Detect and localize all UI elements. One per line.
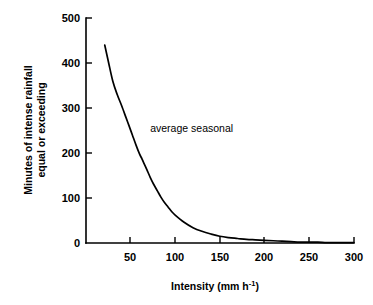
y-tick-label-100: 100 <box>62 192 80 204</box>
svg-text:Intensity (mm h-1): Intensity (mm h-1) <box>171 279 259 292</box>
x-axis-title-main: Intensity (mm h <box>171 280 249 292</box>
y-axis-title-line2: equal or exceeding <box>35 82 47 177</box>
x-axis-title-tail: ) <box>255 280 259 292</box>
y-tick-label-500: 500 <box>62 12 80 24</box>
x-tick-label-300: 300 <box>345 251 363 263</box>
x-tick-label-100: 100 <box>166 251 184 263</box>
x-axis-title-superscript: -1 <box>249 279 256 288</box>
y-axis-tick-labels: 500 400 300 200 100 0 <box>62 12 80 249</box>
x-tick-label-50: 50 <box>124 251 136 263</box>
y-tick-label-0: 0 <box>74 237 80 249</box>
y-axis-title: Minutes of intense rainfall equal or exc… <box>22 65 47 195</box>
x-tick-label-200: 200 <box>255 251 273 263</box>
x-tick-label-250: 250 <box>300 251 318 263</box>
y-tick-label-200: 200 <box>62 147 80 159</box>
y-tick-label-300: 300 <box>62 102 80 114</box>
rainfall-intensity-chart: 500 400 300 200 100 0 50 100 150 200 250… <box>0 0 373 305</box>
chart-figure: 500 400 300 200 100 0 50 100 150 200 250… <box>0 0 373 305</box>
x-axis-title: Intensity (mm h-1) <box>171 279 259 292</box>
y-axis-title-line1: Minutes of intense rainfall <box>22 65 34 195</box>
x-tick-label-150: 150 <box>211 251 229 263</box>
average-seasonal-curve <box>105 45 354 243</box>
y-tick-label-400: 400 <box>62 57 80 69</box>
y-axis-ticks <box>86 18 92 198</box>
x-axis-tick-labels: 50 100 150 200 250 300 <box>124 251 363 263</box>
series-annotation-label: average seasonal <box>150 122 233 134</box>
